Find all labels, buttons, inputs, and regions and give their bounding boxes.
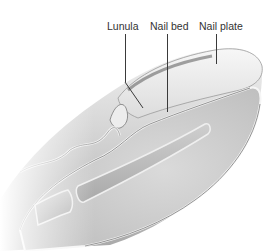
label-nail-bed: Nail bed [150, 20, 189, 32]
nail-anatomy-figure: Lunula Nail bed Nail plate [0, 0, 270, 251]
leader-line-nail-bed [167, 34, 168, 112]
leader-line-lunula [125, 34, 126, 82]
leader-line-nail-plate [216, 34, 217, 64]
label-lunula: Lunula [107, 20, 139, 32]
fingertip-cross-section-illustration [0, 0, 270, 251]
label-nail-plate: Nail plate [199, 20, 243, 32]
